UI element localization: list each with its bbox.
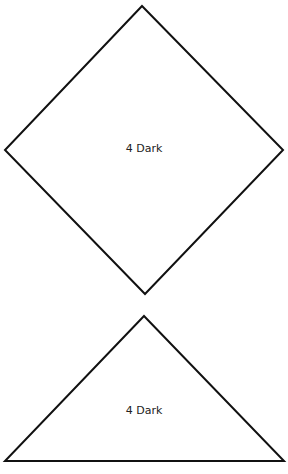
triangle-label: 4 Dark [126,404,163,417]
diamond-label: 4 Dark [126,142,163,155]
triangle-shape [5,316,284,461]
